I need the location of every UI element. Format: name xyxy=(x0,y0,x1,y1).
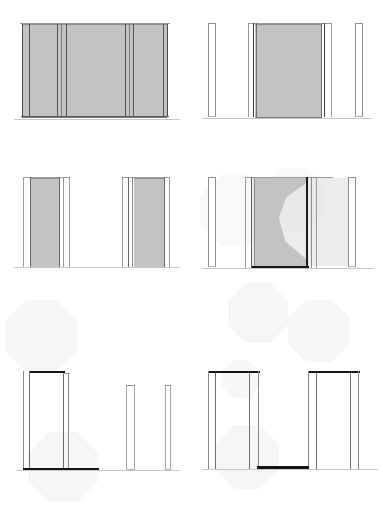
column-rule xyxy=(316,177,317,268)
column-rule xyxy=(133,24,134,117)
frame-top-cap xyxy=(63,373,70,374)
ground-line xyxy=(14,267,180,268)
column-rule xyxy=(22,24,23,117)
column-rule xyxy=(122,177,123,267)
column-rule xyxy=(215,373,216,469)
column-rule xyxy=(245,177,246,268)
free-column xyxy=(355,23,363,117)
column-rule xyxy=(63,177,64,267)
diagram-canvas xyxy=(0,0,383,530)
column-rule xyxy=(316,373,317,469)
top-beam xyxy=(29,371,65,373)
elevation-panel-top-left xyxy=(0,0,192,145)
ground-line xyxy=(14,119,180,120)
column-rule xyxy=(132,177,133,267)
wall-top-cap xyxy=(20,23,170,24)
column-rule xyxy=(23,371,24,469)
column-rule xyxy=(59,177,60,267)
free-column xyxy=(126,385,135,470)
wall-top-cap xyxy=(248,23,332,24)
column-rule xyxy=(253,23,254,117)
infill-wall-field xyxy=(134,178,164,268)
column-rule xyxy=(125,24,126,117)
column-rule xyxy=(57,24,58,117)
base-line xyxy=(21,116,169,117)
elevation-panel-bottom-right xyxy=(192,360,383,490)
column-rule xyxy=(164,177,165,267)
watermark-blob xyxy=(228,283,288,343)
column-rule xyxy=(69,177,70,267)
column-rule xyxy=(128,177,129,267)
column-rule xyxy=(23,177,24,267)
ground-line xyxy=(16,470,180,471)
column-rule xyxy=(254,177,255,268)
elevation-panel-bottom-left xyxy=(0,360,192,490)
column-rule xyxy=(350,373,351,469)
column-rule xyxy=(29,371,30,469)
wall-top-cap xyxy=(245,177,333,178)
elevation-panel-middle-left xyxy=(0,155,192,285)
column-rule xyxy=(308,371,309,469)
column-rule xyxy=(68,373,69,469)
infill-wall-field xyxy=(255,24,322,118)
column-rule xyxy=(169,177,170,267)
infill-wall-field xyxy=(31,178,59,268)
watermark-blob xyxy=(288,300,350,362)
free-column xyxy=(208,177,216,267)
column-rule xyxy=(249,373,250,469)
column-rule xyxy=(129,24,130,117)
elevation-panel-top-right xyxy=(192,0,383,145)
column-rule xyxy=(256,23,257,117)
column-rule xyxy=(30,177,31,267)
column-rule xyxy=(163,24,164,117)
free-column xyxy=(208,23,216,117)
free-column xyxy=(348,177,356,267)
column-rule xyxy=(208,371,209,469)
column-rule xyxy=(61,24,62,117)
column-rule xyxy=(331,23,332,117)
column-rule xyxy=(251,177,252,268)
column-rule xyxy=(358,371,359,469)
column-rule xyxy=(248,23,249,117)
free-column xyxy=(165,385,171,470)
column-rule xyxy=(63,373,64,469)
column-rule xyxy=(324,23,325,117)
column-rule xyxy=(167,24,168,117)
column-rule xyxy=(321,23,322,117)
ground-line xyxy=(202,118,372,119)
column-rule-dark xyxy=(306,177,308,268)
column-rule xyxy=(29,24,30,117)
column-rule xyxy=(311,177,312,268)
ground-line xyxy=(202,268,374,269)
infill-wall-field xyxy=(22,24,167,118)
elevation-panel-middle-right xyxy=(192,155,383,285)
ground-line xyxy=(202,469,378,470)
wall-top-cap xyxy=(122,177,170,178)
column-rule xyxy=(258,371,259,469)
column-rule xyxy=(66,24,67,117)
